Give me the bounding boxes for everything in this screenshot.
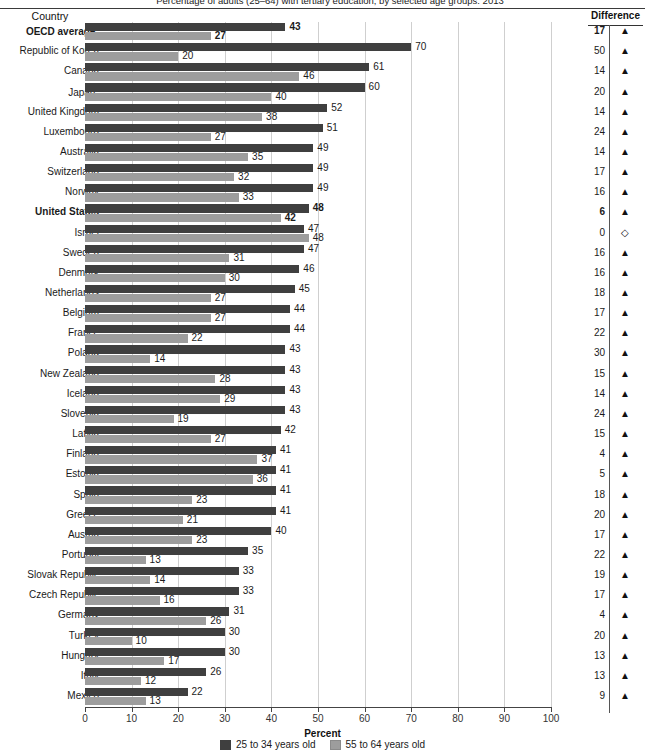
chart-row: OECD average1432717▲ — [0, 22, 645, 42]
difference-up-triangle-icon: ▲ — [614, 429, 636, 439]
difference-value: 17 — [578, 529, 605, 540]
bar-value-55-64: 29 — [224, 393, 235, 404]
bar-55-64 — [85, 435, 211, 443]
chart-row: United States48426▲ — [0, 203, 645, 223]
bar-55-64 — [85, 355, 150, 363]
difference-value: 0 — [578, 227, 605, 238]
chart-row: Austria402317▲ — [0, 526, 645, 546]
difference-value: 6 — [578, 206, 605, 217]
x-tick-label-30: 30 — [205, 713, 245, 724]
bar-value-25-34: 30 — [229, 646, 240, 657]
bar-value-55-64: 27 — [215, 312, 226, 323]
chart-row: Poland431430▲ — [0, 344, 645, 364]
bar-25-34 — [85, 607, 229, 615]
bar-25-34 — [85, 648, 225, 656]
difference-value: 30 — [578, 347, 605, 358]
legend-swatch-old — [330, 740, 341, 750]
chart-row: Italy261213▲ — [0, 667, 645, 687]
bar-value-55-64: 33 — [243, 191, 254, 202]
bar-55-64 — [85, 536, 192, 544]
difference-value: 14 — [578, 106, 605, 117]
difference-value: 18 — [578, 287, 605, 298]
bar-55-64 — [85, 294, 211, 302]
x-tick-50 — [318, 707, 319, 712]
difference-up-triangle-icon: ▲ — [614, 328, 636, 338]
bar-value-55-64: 28 — [219, 373, 230, 384]
bar-55-64 — [85, 72, 299, 80]
chart-row: Estonia41365▲ — [0, 465, 645, 485]
difference-value: 22 — [578, 327, 605, 338]
legend-label: 25 to 34 years old — [236, 739, 316, 750]
chart-row: Republic of Korea702050▲ — [0, 42, 645, 62]
difference-value: 19 — [578, 569, 605, 580]
difference-value: 4 — [578, 448, 605, 459]
bar-value-25-34: 33 — [243, 585, 254, 596]
difference-up-triangle-icon: ▲ — [614, 490, 636, 500]
x-tick-0 — [85, 707, 86, 712]
bar-value-55-64: 31 — [233, 252, 244, 263]
chart-row: Latvia422715▲ — [0, 425, 645, 445]
legend-swatch-young — [220, 740, 231, 750]
bar-55-64 — [85, 556, 146, 564]
difference-up-triangle-icon: ▲ — [614, 268, 636, 278]
chart-row: Portugal351322▲ — [0, 546, 645, 566]
bar-value-25-34: 44 — [294, 303, 305, 314]
difference-up-triangle-icon: ▲ — [614, 46, 636, 56]
difference-value: 16 — [578, 267, 605, 278]
bar-25-34 — [85, 23, 285, 31]
difference-up-triangle-icon: ▲ — [614, 207, 636, 217]
bar-55-64 — [85, 113, 262, 121]
bar-value-25-34: 41 — [280, 484, 291, 495]
difference-up-triangle-icon: ▲ — [614, 590, 636, 600]
bar-value-55-64: 27 — [215, 292, 226, 303]
bar-value-55-64: 23 — [196, 494, 207, 505]
x-tick-label-10: 10 — [112, 713, 152, 724]
x-tick-label-20: 20 — [158, 713, 198, 724]
difference-value: 17 — [578, 166, 605, 177]
difference-value: 14 — [578, 65, 605, 76]
bar-value-55-64: 40 — [275, 91, 286, 102]
bar-25-34 — [85, 366, 285, 374]
bar-55-64 — [85, 52, 178, 60]
bar-value-55-64: 32 — [238, 171, 249, 182]
difference-column-header: Difference — [586, 10, 645, 21]
x-tick-10 — [132, 707, 133, 712]
bar-value-25-34: 43 — [289, 343, 300, 354]
bar-value-25-34: 45 — [299, 283, 310, 294]
chart-row: France442222▲ — [0, 324, 645, 344]
bar-value-25-34: 48 — [313, 202, 324, 213]
bar-value-25-34: 44 — [294, 323, 305, 334]
bar-55-64 — [85, 657, 164, 665]
x-tick-label-80: 80 — [438, 713, 478, 724]
difference-value: 5 — [578, 468, 605, 479]
bar-55-64 — [85, 596, 160, 604]
bar-value-25-34: 40 — [275, 525, 286, 536]
bar-value-55-64: 46 — [303, 70, 314, 81]
bar-55-64 — [85, 475, 253, 483]
bar-value-55-64: 19 — [178, 413, 189, 424]
chart-row: Mexico22139▲ — [0, 687, 645, 707]
difference-value: 24 — [578, 126, 605, 137]
bar-55-64 — [85, 314, 211, 322]
difference-value: 20 — [578, 509, 605, 520]
bar-25-34 — [85, 446, 276, 454]
chart-row: Luxembourg512724▲ — [0, 123, 645, 143]
bar-value-25-34: 47 — [308, 243, 319, 254]
bar-value-25-34: 49 — [317, 142, 328, 153]
bar-55-64 — [85, 153, 248, 161]
bar-55-64 — [85, 274, 225, 282]
bar-value-55-64: 21 — [187, 514, 198, 525]
difference-value: 18 — [578, 489, 605, 500]
bar-value-55-64: 23 — [196, 534, 207, 545]
difference-up-triangle-icon: ▲ — [614, 651, 636, 661]
title-divider-rule — [0, 8, 645, 9]
bar-value-25-34: 30 — [229, 626, 240, 637]
bar-value-25-34: 26 — [210, 666, 221, 677]
difference-value: 20 — [578, 86, 605, 97]
chart-row: Denmark463016▲ — [0, 264, 645, 284]
bar-value-55-64: 22 — [192, 332, 203, 343]
bar-25-34 — [85, 245, 304, 253]
chart-row: Israel47480◇ — [0, 224, 645, 244]
difference-up-triangle-icon: ▲ — [614, 510, 636, 520]
bar-55-64 — [85, 516, 183, 524]
